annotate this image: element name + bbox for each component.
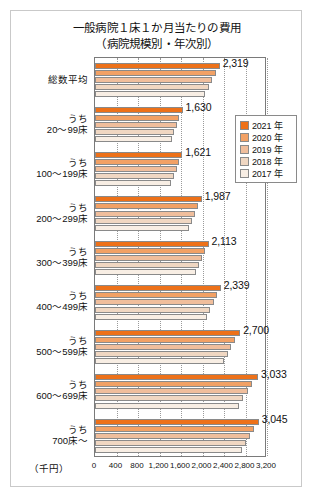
bar [95,166,177,172]
legend-item[interactable]: 2021 年 [240,119,293,131]
bar [95,129,174,135]
x-axis-tick-label: 2,000 [191,461,211,470]
category-label-line2: 500〜599床 [36,346,88,357]
legend-swatch-icon [240,145,249,154]
bar-group: 3,045 [95,419,265,453]
category-label-line1: うち [36,157,88,168]
bar [95,381,252,387]
bar [95,248,205,254]
bar [95,241,209,247]
legend-swatch-icon [240,169,249,178]
bar-group: 2,319 [95,63,265,97]
bar-group: 2,339 [95,285,265,319]
x-axis-tick-label: 3,200 [256,461,276,470]
category-label-line2: 300〜399床 [36,257,88,268]
bar [95,159,179,165]
x-axis-tick-label: 2,800 [234,461,254,470]
bar [95,218,192,224]
legend-item[interactable]: 2018 年 [240,155,293,167]
bar [95,262,199,268]
category-label: 総数平均 [48,74,88,85]
legend-item[interactable]: 2019 年 [240,143,293,155]
chart-subtitle: （病院規模別・年次別） [11,36,303,52]
bar [95,91,205,97]
bar [95,180,171,186]
category-label-line1: うち [36,379,88,390]
bar [95,447,242,453]
category-label-line2: 700床〜 [52,435,88,446]
x-axis-unit-label: （千円） [29,461,69,475]
bar [95,337,235,343]
bar [95,136,172,142]
bar-value-label: 2,319 [223,57,249,69]
category-label: うち300〜399床 [36,246,88,268]
x-axis-tick-label: 1,600 [170,461,190,470]
bar [95,403,239,409]
bar [95,70,216,76]
bar [95,203,198,209]
category-label-line1: うち [47,113,88,124]
x-axis-tick-label: 2,400 [213,461,233,470]
bar [95,173,174,179]
bar [95,358,224,364]
bar-value-label: 3,045 [262,413,288,425]
category-label-line1: うち [36,202,88,213]
category-label: うち200〜299床 [36,202,88,224]
bar [95,426,254,432]
category-label-line2: 200〜299床 [36,213,88,224]
category-label: うち700床〜 [52,424,88,446]
bar [95,211,195,217]
bar [95,63,220,69]
bar-group: 3,033 [95,374,265,408]
bar [95,269,196,275]
legend-swatch-icon [240,157,249,166]
bar [95,196,202,202]
category-label-line2: 20〜99床 [47,124,88,135]
category-label: うち600〜699床 [36,379,88,401]
bar-value-label: 1,987 [205,190,231,202]
category-label-column: 総数平均うち20〜99床うち100〜199床うち200〜299床うち300〜39… [11,57,91,457]
bar [95,122,177,128]
bar [95,152,182,158]
category-label-line2: 600〜699床 [36,390,88,401]
category-label: うち100〜199床 [36,157,88,179]
category-label: うち500〜599床 [36,335,88,357]
bar-group: 2,113 [95,241,265,275]
bar [95,285,221,291]
bar-value-label: 2,113 [212,235,237,247]
bar [95,115,179,121]
category-label: うち20〜99床 [47,113,88,135]
category-label-line2: 100〜199床 [36,168,88,179]
bar-value-label: 2,700 [243,324,269,336]
legend-item[interactable]: 2020 年 [240,131,293,143]
bar [95,84,209,90]
chart-legend: 2021 年2020 年2019 年2018 年2017 年 [235,115,297,183]
legend-swatch-icon [240,121,249,130]
bar [95,225,189,231]
x-axis-tick-label: 0 [92,461,96,470]
bar [95,419,259,425]
x-axis: （千円） 04008001,2001,6002,0002,4002,8003,2… [11,459,303,479]
legend-item[interactable]: 2017 年 [240,167,293,179]
bar-value-label: 1,621 [185,146,211,158]
bar [95,314,207,320]
bar [95,351,228,357]
bar-group: 2,700 [95,330,265,364]
bar [95,107,183,113]
legend-label: 2017 年 [252,167,282,180]
bar-group: 1,987 [95,196,265,230]
category-label-line2: 400〜499床 [36,301,88,312]
bar [95,77,212,83]
legend-swatch-icon [240,133,249,142]
bar [95,299,214,305]
x-axis-tick-label: 1,200 [148,461,168,470]
bar [95,344,231,350]
bar-value-label: 1,630 [186,101,212,113]
category-label-line1: うち [36,290,88,301]
bar [95,395,243,401]
bar [95,330,240,336]
chart-frame: 一般病院１床１か月当たりの費用 （病院規模別・年次別） 総数平均うち20〜99床… [10,10,302,487]
bar [95,440,246,446]
category-label-line1: うち [36,246,88,257]
bar [95,307,210,313]
